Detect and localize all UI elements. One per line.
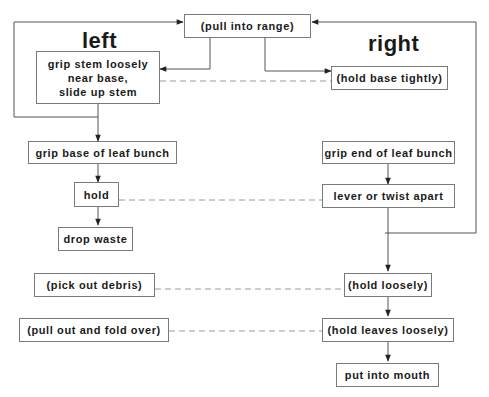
node-pick-debris: (pick out debris) <box>34 273 155 297</box>
node-put-mouth: put into mouth <box>336 363 439 387</box>
pull-to-hold-base-connector <box>265 37 331 71</box>
node-pull-into-range: (pull into range) <box>184 14 311 38</box>
node-hold-leaves-loosely: (hold leaves loosely) <box>322 318 454 342</box>
node-drop-waste: drop waste <box>58 227 133 251</box>
node-grip-stem: grip stem loosely near base, slide up st… <box>36 51 160 104</box>
node-hold-base-tightly: (hold base tightly) <box>331 66 448 90</box>
heading-right: right <box>368 31 419 57</box>
node-hold: hold <box>74 182 119 207</box>
node-pull-fold: (pull out and fold over) <box>19 318 169 342</box>
pull-to-grip-stem-connector <box>160 37 210 69</box>
node-grip-end-leaf: grip end of leaf bunch <box>322 141 455 164</box>
node-hold-loosely: (hold loosely) <box>344 273 432 297</box>
node-lever-twist: lever or twist apart <box>322 184 455 208</box>
node-grip-base-leaf: grip base of leaf bunch <box>28 141 177 164</box>
